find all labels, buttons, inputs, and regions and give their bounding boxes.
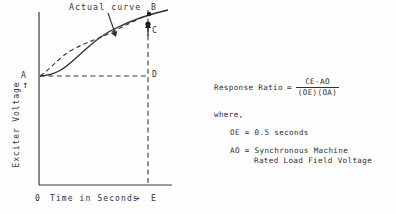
definition-ao-continued: Rated Load Field Voltage — [214, 156, 396, 165]
straight-line-ab-path — [40, 10, 168, 76]
point-label-d: D — [152, 70, 157, 79]
chart-canvas — [0, 0, 210, 214]
x-axis-label: Time in Seconds — [50, 194, 139, 203]
point-label-c: C — [152, 26, 157, 35]
actual-curve-caption: Actual curve — [69, 2, 141, 12]
formula-equals-sign: = — [287, 83, 296, 92]
marker-point-b — [147, 12, 151, 16]
response-ratio-formula: Response Ratio = CE-AO (OE)(OA) — [214, 78, 396, 97]
figure-page: Actual curve B C D A ↑ Exciter Voltage 0… — [0, 0, 396, 214]
formula-denominator: (OE)(OA) — [296, 87, 339, 97]
response-ratio-chart: Actual curve B C D A ↑ Exciter Voltage 0… — [0, 0, 210, 214]
definition-ao: AO = Synchronous Machine — [214, 146, 396, 155]
point-label-b: B — [151, 3, 156, 12]
y-axis-up-arrow-icon: ↑ — [22, 80, 28, 90]
y-axis-label: Exciter Voltage — [12, 75, 21, 175]
definition-oe: OE = 0.5 seconds — [214, 128, 396, 137]
where-label: where, — [214, 110, 396, 119]
formula-numerator: CE-AO — [303, 78, 332, 87]
point-label-origin: 0 — [35, 194, 40, 203]
formula-left-hand-side: Response Ratio — [214, 83, 287, 92]
actual-curve-path — [40, 14, 150, 76]
formula-notes-block: Response Ratio = CE-AO (OE)(OA) where, O… — [214, 78, 396, 165]
x-axis-arrow-icon: → — [134, 193, 140, 203]
point-label-e: E — [151, 194, 156, 203]
formula-fraction: CE-AO (OE)(OA) — [296, 78, 339, 97]
